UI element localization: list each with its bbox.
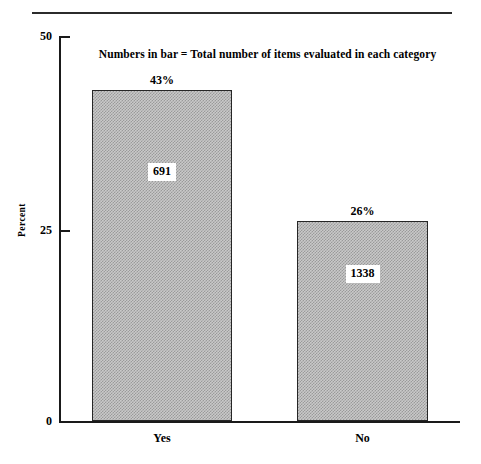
x-category-label-yes: Yes — [92, 431, 232, 445]
x-category-label-no: No — [297, 431, 428, 445]
top-divider-rule — [32, 12, 452, 14]
chart-subtitle: Numbers in bar = Total number of items e… — [60, 47, 475, 61]
y-tick-mark-50 — [61, 36, 70, 38]
y-axis-title: Percent — [17, 184, 27, 256]
bar-count-label-yes: 691 — [148, 163, 176, 181]
y-tick-mark-25 — [61, 230, 70, 232]
bar-yes — [92, 90, 232, 421]
bar-count-label-no: 1338 — [346, 265, 380, 283]
y-tick-label-0: 0 — [18, 415, 52, 427]
bar-value-label-no: 26% — [297, 205, 428, 218]
x-axis-line — [59, 421, 460, 423]
bar-no — [297, 221, 428, 421]
y-tick-label-50: 50 — [18, 30, 52, 42]
bar-value-label-yes: 43% — [92, 74, 232, 87]
bar-chart-figure: Numbers in bar = Total number of items e… — [0, 0, 481, 464]
